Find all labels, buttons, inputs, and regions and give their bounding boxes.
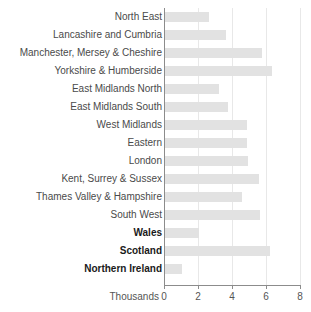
bar-row: South West (0, 206, 311, 224)
bar-row: Yorkshire & Humberside (0, 62, 311, 80)
bar (165, 210, 260, 220)
category-label: Manchester, Mersey & Cheshire (2, 44, 162, 62)
bar-row: Manchester, Mersey & Cheshire (0, 44, 311, 62)
bar-row: West Midlands (0, 116, 311, 134)
category-label: Wales (2, 224, 162, 242)
x-tick-label: 2 (188, 290, 208, 304)
bar (165, 30, 226, 40)
category-label: Lancashire and Cumbria (2, 26, 162, 44)
bar (165, 120, 247, 130)
bar-row: East Midlands North (0, 80, 311, 98)
category-label: Eastern (2, 134, 162, 152)
bar (165, 174, 259, 184)
bar-row: Scotland (0, 242, 311, 260)
tick-mark-8 (300, 285, 301, 289)
category-label: East Midlands North (2, 80, 162, 98)
bar (165, 228, 199, 238)
category-label: Scotland (2, 242, 162, 260)
category-label: Kent, Surrey & Sussex (2, 170, 162, 188)
bar (165, 48, 262, 58)
x-tick-label: 8 (290, 290, 310, 304)
category-label: West Midlands (2, 116, 162, 134)
bar-row: Thames Valley & Hampshire (0, 188, 311, 206)
bar-row: East Midlands South (0, 98, 311, 116)
category-label: North East (2, 8, 162, 26)
category-label: London (2, 152, 162, 170)
x-tick-label: 4 (222, 290, 242, 304)
bar (165, 12, 209, 22)
bar-row: London (0, 152, 311, 170)
tick-mark-2 (198, 285, 199, 289)
bar (165, 192, 242, 202)
category-label: Thames Valley & Hampshire (2, 188, 162, 206)
category-label: East Midlands South (2, 98, 162, 116)
bar-row: Kent, Surrey & Sussex (0, 170, 311, 188)
bar-row: Lancashire and Cumbria (0, 26, 311, 44)
category-label: Northern Ireland (2, 260, 162, 278)
bar-row: Eastern (0, 134, 311, 152)
bar-chart: North EastLancashire and CumbriaManchest… (0, 0, 311, 312)
bar (165, 102, 228, 112)
bar-row: North East (0, 8, 311, 26)
bar (165, 66, 272, 76)
bar-row: Northern Ireland (0, 260, 311, 278)
x-tick-label: 6 (256, 290, 276, 304)
tick-mark-0 (164, 285, 165, 289)
category-label: South West (2, 206, 162, 224)
bar (165, 84, 219, 94)
bar (165, 246, 270, 256)
bar (165, 156, 248, 166)
x-axis-title: Thousands (0, 290, 159, 304)
category-label: Yorkshire & Humberside (2, 62, 162, 80)
bar-row: Wales (0, 224, 311, 242)
bar (165, 264, 182, 274)
tick-mark-6 (266, 285, 267, 289)
bar (165, 138, 247, 148)
tick-mark-4 (232, 285, 233, 289)
